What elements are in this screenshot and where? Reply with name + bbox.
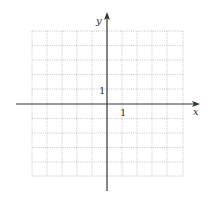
- y-axis-label: y: [95, 15, 102, 26]
- x-tick-label: 1: [120, 107, 126, 118]
- coordinate-plane: x y 1 1: [0, 0, 208, 202]
- x-axis-label: x: [193, 106, 199, 117]
- y-tick-label: 1: [99, 85, 105, 96]
